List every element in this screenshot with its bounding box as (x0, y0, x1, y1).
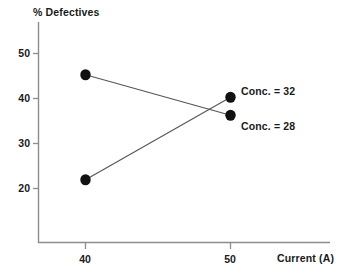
y-tick-label-40: 40 (6, 92, 30, 104)
x-axis-title: Current (A) (277, 252, 334, 264)
y-tick-label-50: 50 (6, 47, 30, 59)
x-tick-label-40: 40 (70, 253, 100, 265)
y-axis-title: % Defectives (33, 6, 100, 18)
data-point-conc32-x50 (225, 92, 235, 103)
interaction-plot-canvas (0, 0, 339, 276)
x-tick-label-50: 50 (215, 253, 245, 265)
data-point-conc28-x40 (80, 69, 90, 80)
y-tick-label-30: 30 (6, 137, 30, 149)
series-annotation-conc-28: Conc. = 28 (241, 120, 295, 132)
y-tick-label-20: 20 (6, 182, 30, 194)
chart-figure: % Defectives Current (A) 50 40 30 20 40 … (0, 0, 339, 276)
data-point-conc28-x50 (225, 110, 235, 121)
series-annotation-conc-32: Conc. = 32 (241, 85, 295, 97)
data-point-conc32-x40 (80, 174, 90, 185)
series-line-conc-32 (86, 97, 231, 180)
